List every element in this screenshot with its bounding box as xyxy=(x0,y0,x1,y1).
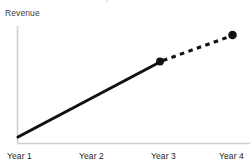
plot-area xyxy=(0,0,252,166)
projected-revenue-dashed-line xyxy=(163,36,231,61)
x-tick-label-year3: Year 3 xyxy=(151,150,176,162)
actual-revenue-solid-line xyxy=(18,62,160,137)
x-axis-tick-labels: Year 1 Year 2 Year 3 Year 4 xyxy=(0,150,252,164)
x-tick-label-year4: Year 4 xyxy=(219,150,244,162)
revenue-projection-chart: Revenue Growth and Projection Revenue Ye… xyxy=(0,0,252,166)
x-tick-label-year1: Year 1 xyxy=(7,150,32,162)
data-point-marker-year3 xyxy=(156,58,164,66)
x-tick-label-year2: Year 2 xyxy=(79,150,104,162)
data-point-marker-year4 xyxy=(228,31,237,40)
